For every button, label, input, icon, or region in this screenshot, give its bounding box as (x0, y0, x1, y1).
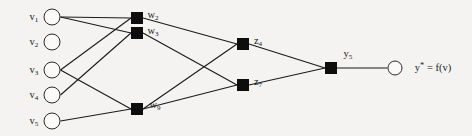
label-w9: w9 (149, 100, 160, 111)
node-v1[interactable] (44, 9, 61, 26)
label-v3: v3 (30, 65, 39, 76)
output-expression-label: y* = f(v) (415, 63, 451, 74)
label-z7-base: z (254, 76, 259, 87)
label-v4-subscript: 4 (35, 94, 39, 102)
output-expression-star: * (420, 61, 424, 70)
node-w2[interactable] (131, 12, 143, 24)
label-w2-subscript: 2 (155, 14, 159, 22)
node-z4[interactable] (237, 38, 249, 50)
edge-v3-to-w2 (61, 18, 132, 70)
node-v2[interactable] (44, 34, 61, 51)
label-w3: w3 (147, 26, 158, 37)
label-z7-subscript: 7 (259, 81, 263, 89)
edge-v4-to-w3 (61, 33, 132, 95)
label-z4: z4 (254, 36, 262, 47)
node-w3[interactable] (131, 27, 143, 39)
label-v5: v5 (30, 116, 39, 127)
label-w2: w2 (147, 10, 158, 21)
label-w2-base: w (147, 9, 155, 20)
edge-v3-to-w9 (61, 70, 132, 109)
label-v2-subscript: 2 (35, 41, 39, 49)
label-w9-subscript: 9 (157, 104, 161, 112)
node-v3[interactable] (44, 62, 61, 79)
label-y5: y5 (344, 49, 353, 60)
node-v4[interactable] (44, 87, 61, 104)
label-z4-base: z (254, 35, 259, 46)
edge-v1-to-w3 (61, 17, 132, 33)
node-w9[interactable] (131, 103, 143, 115)
label-v3-subscript: 3 (35, 69, 39, 77)
edge-v1-to-w2 (61, 17, 132, 18)
edge-w3-to-z7 (143, 33, 237, 85)
label-w9-base: w (149, 99, 157, 110)
label-v1-subscript: 1 (35, 16, 39, 24)
label-v4: v4 (30, 90, 39, 101)
label-w3-subscript: 3 (155, 30, 159, 38)
node-y5[interactable] (325, 62, 337, 74)
label-z4-subscript: 4 (259, 40, 263, 48)
output-expression-tail: = f(v) (424, 62, 451, 73)
label-z7: z7 (254, 77, 262, 88)
label-v1: v1 (30, 12, 39, 23)
node-z7[interactable] (237, 79, 249, 91)
node-out[interactable] (388, 61, 403, 76)
edge-v5-to-w9 (61, 109, 132, 121)
label-v5-subscript: 5 (35, 120, 39, 128)
label-y5-subscript: 5 (349, 53, 353, 61)
label-v2: v2 (30, 37, 39, 48)
network-diagram: v1v2v3v4v5w2w3w9z4z7y5 y* = f(v) (0, 0, 472, 136)
label-w3-base: w (147, 25, 155, 36)
node-v5[interactable] (44, 113, 61, 130)
